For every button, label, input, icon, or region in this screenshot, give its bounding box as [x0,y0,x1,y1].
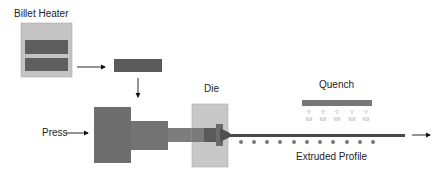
heating-element-bottom [25,58,68,71]
quench-spray-icons [306,110,369,121]
billet [114,59,162,72]
extrusion-diagram [0,0,445,174]
press [94,107,204,163]
die [192,104,230,167]
quench-bar [302,100,372,106]
heating-element-top [25,40,68,54]
rollers [239,140,375,144]
extruded-profile [228,134,405,137]
billet-heater [21,23,72,77]
